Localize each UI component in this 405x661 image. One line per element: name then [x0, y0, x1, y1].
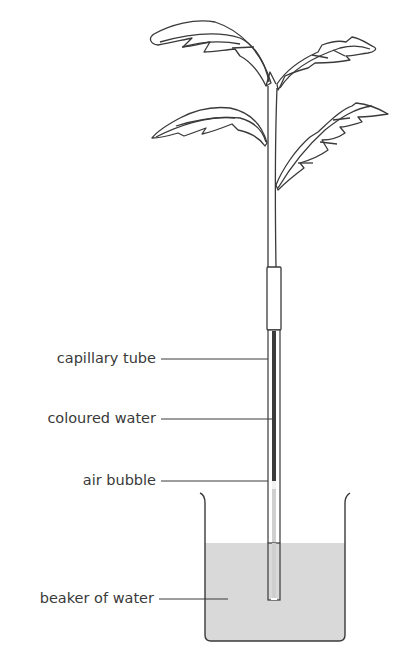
label-beaker-of-water: beaker of water: [40, 589, 154, 607]
leaf-top-left: [151, 21, 271, 86]
leaf-lower-left: [152, 107, 267, 146]
transpiration-diagram: capillary tube coloured water air bubble…: [0, 0, 405, 661]
coloured-water-column: [272, 331, 276, 481]
leaf-top-right: [277, 37, 376, 90]
label-coloured-water: coloured water: [47, 409, 156, 427]
air-bubble: [272, 481, 276, 489]
label-air-bubble: air bubble: [83, 471, 156, 489]
rubber-sleeve: [267, 267, 281, 330]
diagram-drawing: [0, 0, 405, 661]
leaf-lower-right: [276, 103, 388, 190]
plant-shoot: [151, 21, 388, 268]
label-capillary-tube: capillary tube: [57, 349, 156, 367]
